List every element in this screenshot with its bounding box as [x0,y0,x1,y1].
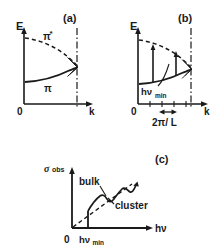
panel-b-transition-leader-line [158,64,169,86]
panel-b-y-axis-label: E [130,20,137,32]
panel-c: (c) σ obs hν 0 hν min bulk [44,153,169,246]
panel-a-pi-star-superscript: * [50,29,54,38]
panel-b-transition-label: hν [141,86,152,97]
panel-a: (a) E k 0 [16,12,95,117]
panel-a-pi-star-curve [25,38,78,67]
panel-c-threshold-label: hν [79,234,90,245]
panel-c-origin-label: 0 [64,234,70,245]
figure-canvas: (a) E k 0 [0,0,219,250]
panel-c-label: (c) [155,153,169,165]
panel-c-y-axis-label: σ [44,163,50,174]
panel-b-transition-arrow-1-head [151,44,156,50]
panel-c-x-axis-label: hν [155,223,167,234]
panel-a-label: (a) [63,12,77,24]
panel-b-spacing-arrow [159,110,177,115]
panel-a-origin-label: 0 [17,106,23,117]
panel-b-transition-subscript: min [155,92,167,99]
panel-b-spacing-label: 2π/ L [152,117,177,128]
panel-b: (b) E k 0 [130,12,210,128]
panel-c-y-axis-arrowhead [69,167,75,174]
panel-c-cluster-label: cluster [115,200,148,211]
panel-c-threshold-subscript: min [93,239,105,246]
panel-a-x-axis-label: k [89,106,95,117]
panel-c-cluster-arrowhead [133,182,139,187]
panel-b-label: (b) [178,12,192,24]
figure-root: (a) E k 0 [0,0,219,250]
panel-c-y-axis-subscript: obs [52,166,65,173]
panel-c-bulk-label: bulk [79,176,100,187]
panel-b-pi-star-curve [139,40,192,69]
panel-a-y-axis-label: E [16,20,23,32]
panel-c-x-axis-arrowhead [146,225,153,231]
panel-b-x-axis-label: k [204,106,210,117]
panel-b-origin-label: 0 [131,106,137,117]
panel-a-pi-label: π [44,83,52,94]
